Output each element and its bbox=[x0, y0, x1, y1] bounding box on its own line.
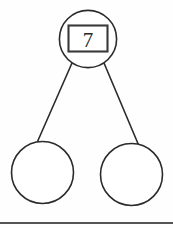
branch-right-line bbox=[104, 63, 139, 146]
part-left-circle[interactable] bbox=[12, 142, 74, 204]
whole-value-label: 7 bbox=[83, 28, 94, 52]
part-right-circle[interactable] bbox=[101, 144, 163, 206]
branch-left-line bbox=[36, 63, 72, 145]
number-bond-canvas: 7 bbox=[0, 0, 173, 228]
number-bond-diagram: 7 bbox=[0, 0, 173, 228]
